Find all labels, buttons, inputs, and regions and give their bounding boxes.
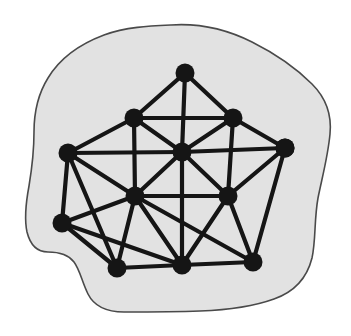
graph-vertex-bottom-right (244, 253, 263, 272)
graph-vertex-upper-left (125, 109, 144, 128)
graph-vertex-left (59, 144, 78, 163)
graph-vertex-mid-right (219, 187, 238, 206)
graph-vertex-bottom-center (173, 256, 192, 275)
graph-vertex-top (176, 64, 195, 83)
graph-vertex-lower-left (53, 214, 72, 233)
graph-edge-v3-v4 (68, 152, 182, 153)
graph-edge-v10-v11 (182, 262, 253, 265)
graph-vertex-bottom-left (108, 259, 127, 278)
graph-diagram-canvas (0, 0, 351, 336)
graph-edge-v0-v3 (182, 73, 185, 152)
graph-vertex-mid-left (126, 187, 145, 206)
graph-edge-v1-v6 (134, 118, 135, 196)
graph-vertex-right-lower (276, 139, 295, 158)
figure-root (0, 0, 351, 336)
graph-vertex-upper-right (224, 109, 243, 128)
graph-vertex-center (173, 143, 192, 162)
graph-edge-v9-v10 (117, 265, 182, 268)
